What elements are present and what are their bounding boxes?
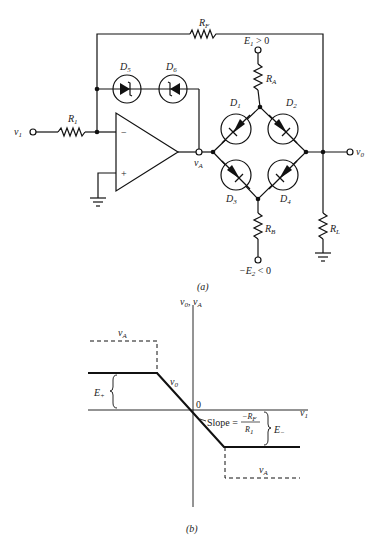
figure-canvas: RF E1 > 0 RA [0,0,383,541]
label-rf: RF [198,17,210,30]
label-inverting-input: − [121,127,127,138]
slope-label: Slope = [207,417,238,428]
label-ra: RA [265,73,277,86]
v0-terminal [347,149,353,155]
circuit-diagram: RF E1 > 0 RA [14,17,364,293]
diode-bridge [213,105,308,202]
resistor-rl-icon [319,213,327,239]
va-upper-label: vA [118,327,127,340]
label-e2: −E2 < 0 [239,265,271,278]
diode-d2-icon [268,114,298,144]
diode-d3-icon [221,160,251,190]
slope-numerator: −RF [242,412,257,423]
resistor-rb-icon [254,213,262,239]
label-d2: D2 [285,97,297,110]
label-d6: D6 [165,61,177,74]
origin-label: 0 [196,399,201,410]
label-noninverting-input: + [121,168,127,179]
caption-a: (a) [197,281,209,293]
e-minus-label: E− [273,424,285,437]
va-upper-curve [90,341,157,373]
label-rl: RL [329,223,340,236]
caption-b: (b) [186,523,198,535]
diode-d1-icon [221,114,251,144]
resistor-r1-icon [58,128,85,136]
zener-pair [95,75,199,149]
label-e1: E1 > 0 [243,35,269,48]
resistor-ra-icon [254,64,262,90]
v1-terminal [30,129,36,135]
transfer-characteristic-chart: v0, vA v1 0 v0 vA vA E+ E− Slope = −RF R… [88,296,308,535]
e-plus-label: E+ [93,387,105,400]
label-va: vA [194,157,203,170]
e-plus-brace-icon [110,375,117,408]
y-axis-label: v0, vA [180,296,202,309]
e-minus-brace-icon [264,412,271,445]
op-amp-icon [90,113,196,206]
label-v0: v0 [356,146,364,159]
e2-branch [254,199,262,263]
label-r1: R1 [67,113,78,126]
v0-curve-label: v0 [170,376,178,389]
x-axis-label: v1 [300,407,308,420]
label-v1: v1 [14,126,22,139]
diode-d4-icon [268,160,298,190]
node-dot [95,87,100,92]
e1-branch [254,47,262,107]
label-d5: D5 [119,61,131,74]
e2-terminal [255,257,261,263]
label-d4: D4 [279,193,291,206]
va-lower-label: vA [259,464,268,477]
ground-icon [90,198,106,206]
resistor-rf-icon [190,30,218,38]
va-terminal [196,149,202,155]
label-d3: D3 [225,193,237,206]
e1-terminal [255,47,261,53]
ground-icon [315,253,331,261]
slope-denominator: R1 [244,425,253,436]
input-branch [30,128,116,136]
node-dot [95,130,100,135]
output-branch [306,149,353,261]
label-d1: D1 [229,97,241,110]
label-rb: RB [264,223,276,236]
